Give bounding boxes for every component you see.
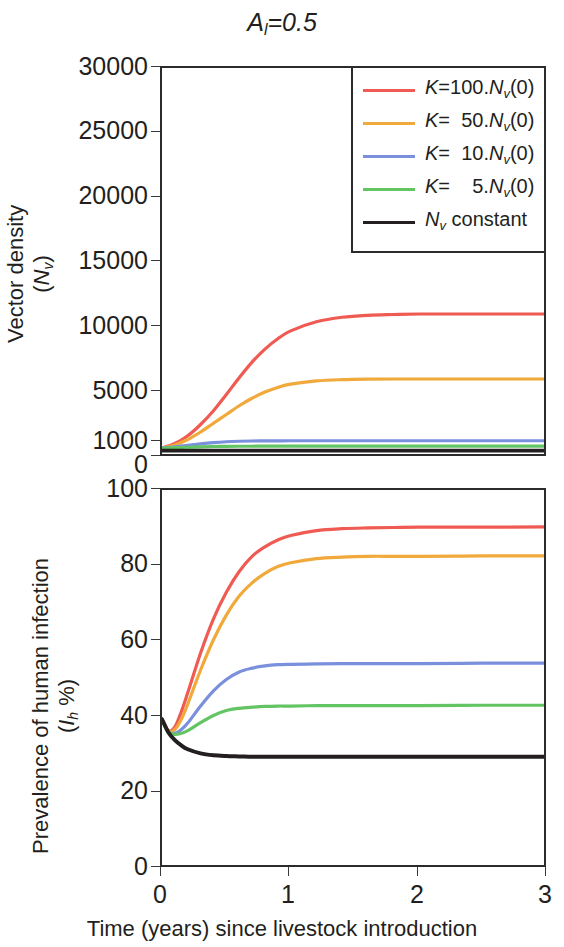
y-tick-label-10000: 10000 [30, 313, 148, 338]
x-tick-mark-2 [417, 867, 418, 876]
y-tick-label-20000: 20000 [30, 183, 148, 208]
figure-title: Al=0.5 [0, 8, 564, 39]
legend-item-k-5[interactable]: K= 5.Nv(0) [353, 173, 544, 206]
legend-swatch-k-10 [363, 155, 415, 158]
y-tick-mark-30000 [151, 66, 160, 67]
y-tick-mark-0-bottom [151, 866, 160, 867]
legend-item-nv-constant[interactable]: Nv constant [353, 206, 544, 239]
y-tick-mark-20000 [151, 196, 160, 197]
y-tick-label-30000: 30000 [30, 54, 148, 79]
legend-swatch-k-5 [363, 188, 415, 191]
legend-item-k-100[interactable]: K=100.Nv(0) [353, 74, 544, 107]
y-tick-label-100: 100 [30, 476, 148, 501]
legend-label-k-100: K=100.Nv(0) [425, 77, 534, 104]
y-tick-label-40: 40 [30, 703, 148, 728]
legend-label-nv-constant: Nv constant [425, 209, 527, 236]
y-tick-mark-100 [151, 488, 160, 489]
human-prevalence-curves [162, 490, 546, 867]
y-tick-mark-10000 [151, 325, 160, 326]
plot-area-human-prevalence [160, 488, 546, 867]
legend-label-k-10: K= 10.Nv(0) [425, 143, 534, 170]
x-tick-mark-3 [545, 867, 546, 876]
y-tick-mark-15000 [151, 260, 160, 261]
y-tick-label-80: 80 [30, 551, 148, 576]
legend-swatch-k-50 [363, 122, 415, 125]
y-tick-label-60: 60 [30, 627, 148, 652]
figure-title-value: =0.5 [267, 8, 316, 36]
y-tick-mark-20 [151, 791, 160, 792]
y-tick-mark-40 [151, 715, 160, 716]
legend-label-k-5: K= 5.Nv(0) [425, 176, 534, 203]
y-tick-mark-80 [151, 564, 160, 565]
y-tick-mark-1000 [151, 440, 160, 441]
x-tick-label-1: 1 [258, 882, 318, 907]
legend-swatch-nv-constant [363, 221, 415, 224]
legend-item-k-10[interactable]: K= 10.Nv(0) [353, 140, 544, 173]
y-tick-label-1000: 1000 [30, 428, 148, 453]
y-tick-label-25000: 25000 [30, 118, 148, 143]
y-tick-label-15000: 15000 [30, 248, 148, 273]
x-tick-label-2: 2 [387, 882, 447, 907]
y-tick-label-5000: 5000 [30, 378, 148, 403]
legend-box: K=100.Nv(0) K= 50.Nv(0) K= 10.Nv(0) K= 5… [351, 66, 546, 253]
y-tick-mark-25000 [151, 131, 160, 132]
x-tick-label-3: 3 [515, 882, 564, 907]
y-tick-mark-60 [151, 639, 160, 640]
x-tick-mark-1 [288, 867, 289, 876]
y-tick-label-20: 20 [30, 778, 148, 803]
legend-item-k-50[interactable]: K= 50.Nv(0) [353, 107, 544, 140]
figure-root: Al=0.5 Vector density (Nv) 30000 25000 2… [0, 0, 564, 947]
y-axis-title-top-line1: Vector density [3, 205, 28, 343]
legend-label-k-50: K= 50.Nv(0) [425, 110, 534, 137]
figure-title-symbol: A [247, 8, 264, 36]
legend-swatch-k-100 [363, 89, 415, 92]
y-tick-mark-5000 [151, 390, 160, 391]
y-tick-mark-0-top [151, 455, 160, 456]
x-axis-title: Time (years) since livestock introductio… [0, 916, 564, 942]
x-tick-label-0: 0 [130, 882, 190, 907]
y-tick-label-0-bottom: 0 [30, 854, 148, 879]
x-tick-mark-0 [160, 867, 161, 876]
